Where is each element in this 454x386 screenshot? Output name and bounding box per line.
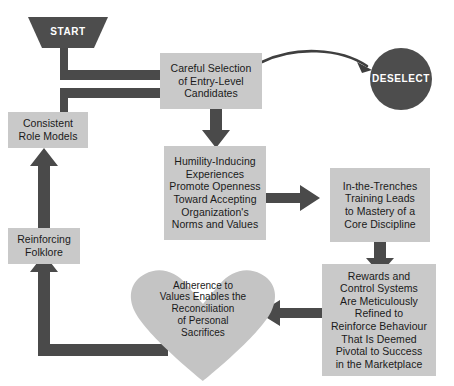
flowchart-canvas: START DESELECT Careful Selection of Entr… bbox=[0, 0, 454, 386]
edge-selection-to-humility bbox=[202, 108, 230, 148]
node-adherence-shape bbox=[131, 270, 275, 381]
node-role-models-shape bbox=[8, 112, 88, 148]
edge-folklore-to-rolemodels bbox=[30, 148, 58, 228]
node-folklore-shape bbox=[8, 228, 80, 264]
node-start-shape bbox=[28, 17, 108, 48]
node-deselect-shape bbox=[370, 48, 432, 110]
node-trenches-shape bbox=[330, 168, 430, 242]
edge-humility-to-trenches bbox=[266, 185, 320, 211]
edge-selection-to-deselect bbox=[262, 51, 372, 73]
node-rewards-shape bbox=[322, 264, 436, 376]
node-humility-shape bbox=[164, 146, 266, 240]
node-careful-selection-shape bbox=[160, 53, 262, 109]
flowchart-graphics bbox=[0, 0, 454, 386]
